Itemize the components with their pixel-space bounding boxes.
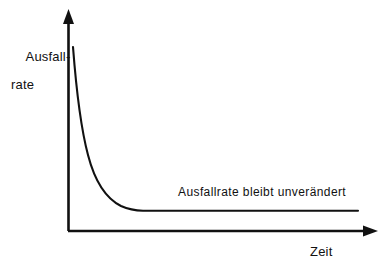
reliability-curve-figure: Ausfall- rate Ausfallrate bleibt unverän…: [0, 0, 388, 271]
y-axis-label-line1: Ausfall-: [26, 49, 71, 64]
up-arrow-icon: [63, 9, 74, 24]
y-axis-label: Ausfall- rate: [11, 36, 70, 120]
x-axis-label: Zeit: [310, 245, 332, 259]
curve-annotation: Ausfallrate bleibt unverändert: [178, 185, 346, 199]
right-arrow-icon: [363, 226, 378, 237]
y-axis-label-line2: rate: [11, 78, 70, 92]
